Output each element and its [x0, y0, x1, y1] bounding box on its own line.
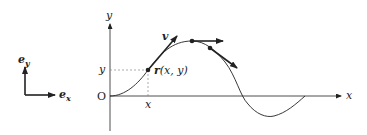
y-axis-label: y	[105, 9, 113, 22]
point-descending	[208, 46, 213, 51]
position-label: r(x, y)	[154, 64, 188, 77]
velocity-arrow-3	[210, 48, 237, 68]
projection-lines: y x	[98, 63, 152, 111]
velocity-label: v	[162, 30, 169, 43]
ex-label: ex	[59, 88, 71, 103]
origin-label: O	[97, 90, 106, 103]
point-peak	[190, 39, 195, 44]
ey-label: ey	[18, 53, 31, 68]
y-tick-label: y	[98, 63, 106, 76]
x-axis-label: x	[346, 89, 353, 102]
points: r(x, y)	[146, 39, 213, 77]
x-tick-label: x	[145, 98, 152, 111]
basis-vectors: ey ex	[18, 53, 71, 103]
trajectory-curve	[110, 41, 305, 117]
point-position	[146, 68, 151, 73]
trajectory-diagram: ey ex y x O y x v r(x, y)	[0, 0, 367, 135]
